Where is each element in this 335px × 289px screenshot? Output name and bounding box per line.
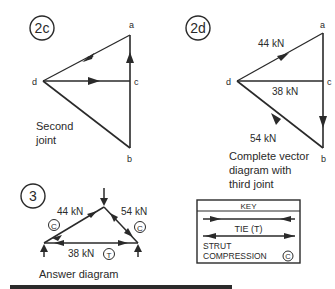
badge-2c-label: 2c — [35, 20, 50, 36]
panel-2c: 2c a c d Second joint — [30, 16, 139, 148]
point-c-label: c — [134, 77, 139, 87]
point-c-label: c — [327, 77, 332, 87]
point-b-label: b — [127, 154, 132, 164]
point-d-label: d — [32, 77, 37, 87]
strut-label-line2: COMPRESSION — [203, 251, 267, 261]
reaction-left-arrow-icon — [40, 244, 48, 252]
force-38kn-label: 38 kN — [272, 86, 298, 97]
force-44kn-label: 44 kN — [258, 38, 284, 49]
caption-2c-line1: Second — [36, 120, 73, 132]
caption-3: Answer diagram — [39, 268, 118, 280]
load-arrow-icon — [100, 198, 108, 206]
member-bottom-force: 38 kN — [68, 248, 94, 259]
tension-bottom-letter: T — [107, 251, 112, 260]
compression-right-letter: C — [137, 224, 143, 233]
reaction-right-arrow-icon — [134, 244, 142, 252]
compression-key-letter: C — [285, 252, 291, 261]
tie-label: TIE (T) — [235, 224, 263, 234]
arrow-c-to-b-icon — [319, 116, 327, 128]
force-54kn-label: 54 kN — [250, 133, 276, 144]
caption-2d-line2: diagram with — [229, 164, 291, 176]
panel-2d: 2d a c d b 44 kN 38 kN 54 kN Complete ve… — [186, 16, 332, 190]
member-left-force: 44 kN — [57, 206, 83, 217]
arrow-c-to-a-icon — [126, 52, 134, 63]
point-b-label: b — [321, 154, 326, 164]
arrow-bottom-right-icon — [118, 240, 128, 246]
compression-left-letter: C — [51, 222, 57, 231]
panel-3: 3 44 kN 54 kN 38 kN C C T Answer diagram — [21, 184, 147, 280]
arrow-bottom-left-icon — [54, 240, 64, 246]
caption-2d-line1: Complete vector — [229, 150, 309, 162]
key-box: KEY TIE (T) STRUT COMPRESSION C — [197, 200, 300, 263]
badge-2d-label: 2d — [190, 20, 206, 36]
member-right-force: 54 kN — [121, 206, 147, 217]
key-title: KEY — [240, 202, 257, 211]
bottom-divider-bar — [10, 285, 232, 289]
arrow-d-to-c-icon — [88, 77, 100, 85]
badge-3-label: 3 — [29, 188, 37, 204]
truss-diagrams: 2c a c d Second joint 2d a c d b 44 kN — [0, 0, 335, 289]
caption-2d-line3: third joint — [229, 178, 274, 190]
caption-2c-line2: joint — [35, 134, 56, 146]
arrow-d-to-a-icon — [277, 53, 289, 61]
point-a-label: a — [320, 20, 325, 30]
point-d-label: d — [226, 77, 231, 87]
point-a-label: a — [129, 20, 134, 30]
line-a-d — [43, 35, 130, 81]
strut-label-line1: STRUT — [203, 241, 231, 251]
